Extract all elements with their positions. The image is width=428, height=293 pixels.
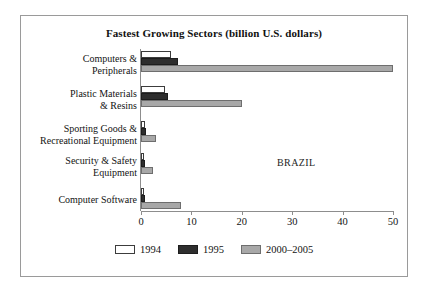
bar-2000-2005 xyxy=(141,135,156,142)
bar-1994 xyxy=(141,188,144,195)
bar-1994 xyxy=(141,121,145,128)
chart-annotation-brazil: BRAZIL xyxy=(277,157,316,168)
category-label: Security & Safety Equipment xyxy=(19,155,137,178)
chart-legend: 199419952000–2005 xyxy=(21,244,407,255)
x-tick xyxy=(242,211,243,215)
x-tick xyxy=(191,211,192,215)
plot-area: Computers & PeripheralsPlastic Materials… xyxy=(141,49,393,211)
bar-1994 xyxy=(141,51,171,58)
bar-1995 xyxy=(141,195,145,202)
bar-2000-2005 xyxy=(141,100,242,107)
x-tick xyxy=(141,211,142,215)
x-tick-label: 20 xyxy=(227,216,257,227)
bar-1995 xyxy=(141,58,178,65)
chart-figure: Fastest Growing Sectors (billion U.S. do… xyxy=(20,15,408,277)
category-label: Computers & Peripherals xyxy=(19,53,137,76)
x-tick-label: 0 xyxy=(126,216,156,227)
category-label: Computer Software xyxy=(19,194,137,206)
bar-1994 xyxy=(141,153,144,160)
bar-2000-2005 xyxy=(141,202,181,209)
legend-swatch-icon xyxy=(115,245,135,254)
x-tick xyxy=(393,211,394,215)
x-tick xyxy=(292,211,293,215)
x-tick-label: 50 xyxy=(378,216,408,227)
legend-item-2000-2005[interactable]: 2000–2005 xyxy=(241,244,313,255)
x-tick xyxy=(343,211,344,215)
legend-item-1995[interactable]: 1995 xyxy=(178,244,224,255)
bar-2000-2005 xyxy=(141,167,153,174)
bar-2000-2005 xyxy=(141,65,393,72)
bar-1994 xyxy=(141,86,165,93)
x-tick-label: 40 xyxy=(328,216,358,227)
category-label: Plastic Materials & Resins xyxy=(19,88,137,111)
legend-item-1994[interactable]: 1994 xyxy=(115,244,161,255)
bar-1995 xyxy=(141,160,145,167)
category-label: Sporting Goods & Recreational Equipment xyxy=(19,123,137,146)
legend-label: 1994 xyxy=(140,244,161,255)
x-tick-label: 30 xyxy=(277,216,307,227)
legend-swatch-icon xyxy=(178,245,198,254)
x-axis xyxy=(141,211,393,212)
bar-1995 xyxy=(141,93,168,100)
legend-label: 1995 xyxy=(203,244,224,255)
chart-title: Fastest Growing Sectors (billion U.S. do… xyxy=(21,27,407,39)
legend-label: 2000–2005 xyxy=(266,244,313,255)
bar-1995 xyxy=(141,128,146,135)
legend-swatch-icon xyxy=(241,245,261,254)
x-tick-label: 10 xyxy=(176,216,206,227)
